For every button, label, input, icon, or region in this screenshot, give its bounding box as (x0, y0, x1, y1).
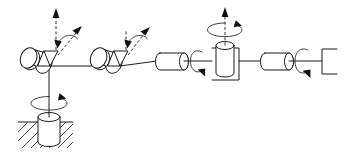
kinematic-diagram-root (0, 0, 349, 161)
base-rotation-arrowhead (58, 93, 66, 100)
shoulder-vertical-axis-arrowhead (53, 8, 60, 18)
wrist-cylinder-body (216, 46, 234, 78)
robot-arm-kinematic-diagram (0, 0, 349, 161)
elbow-tilted-axis-arrowhead (140, 27, 150, 36)
joint-shoulder-revolute (17, 8, 103, 73)
forearm-roll-arrowhead (198, 68, 206, 76)
end-effector-bracket (322, 49, 337, 74)
shoulder-tilted-axis-dashed (58, 33, 76, 55)
joint-base-waist-revolute (31, 66, 67, 147)
shoulder-tilted-axis-arrowhead (72, 26, 82, 35)
wrist-vertical-axis-arrowhead (222, 7, 229, 17)
elbow-tilted-axis-dashed (128, 34, 144, 55)
elbow-rotation-arrowhead (124, 40, 132, 49)
joint-wrist-pitch-revolute (208, 7, 263, 80)
tool-roll-arrowhead (303, 70, 311, 78)
shoulder-rotation-arrowhead (54, 40, 62, 49)
joint-elbow-revolute (87, 27, 157, 73)
forearm-link (120, 61, 157, 66)
wrist-rotation-arrowhead (234, 20, 242, 27)
joint-tool-roll-revolute (261, 49, 323, 78)
end-effector-open-bracket (322, 49, 337, 74)
joint-forearm-roll-revolute (156, 51, 213, 77)
